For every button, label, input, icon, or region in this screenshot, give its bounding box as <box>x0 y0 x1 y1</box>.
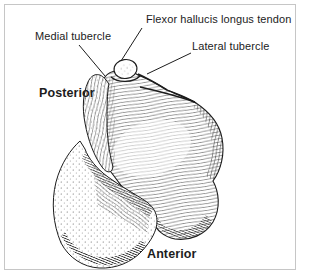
flexor-leader-line <box>121 28 142 61</box>
figure-panel: Flexor hallucis longus tendon Medial tub… <box>0 0 314 278</box>
lateral-leader-line <box>147 53 191 74</box>
anterior-orientation-label: Anterior <box>147 248 196 262</box>
medial-leader-line <box>79 45 105 76</box>
posterior-orientation-label: Posterior <box>39 87 95 101</box>
lateral-tubercle-label: Lateral tubercle <box>192 40 269 52</box>
medial-tubercle-label: Medial tubercle <box>35 30 111 42</box>
flexor-hallucis-longus-tendon-label: Flexor hallucis longus tendon <box>146 13 291 25</box>
